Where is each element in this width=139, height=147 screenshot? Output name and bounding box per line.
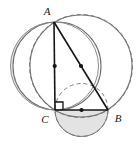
geometry-figure: A B C [0, 0, 139, 147]
geometry-canvas: A B C [0, 0, 139, 147]
label-C: C [41, 113, 49, 125]
midpoint-dot-CB [79, 108, 83, 112]
midpoint-dot-AC [53, 64, 57, 68]
label-B: B [115, 112, 122, 124]
label-A: A [43, 5, 51, 17]
midpoint-dot-AB [79, 64, 83, 68]
